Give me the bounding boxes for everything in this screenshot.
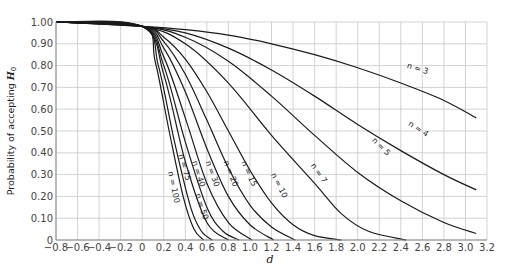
- x-tick-label: 2.4: [393, 242, 409, 253]
- y-tick-label: 0.60: [31, 104, 53, 115]
- x-tick-label: 1.6: [307, 242, 323, 253]
- x-tick-label: 3.0: [457, 242, 473, 253]
- curve-label: n = 5: [370, 136, 392, 158]
- curve-label: n = 100: [166, 171, 181, 204]
- y-tick-label: 0.20: [31, 191, 53, 202]
- x-tick-label: 3.2: [479, 242, 495, 253]
- x-tick-label: 2.6: [414, 242, 430, 253]
- curve-label: n = 15: [239, 159, 258, 187]
- y-tick-label: 0.40: [31, 147, 53, 158]
- curve-label: n = 7: [309, 162, 329, 185]
- curve-label: n = 4: [407, 119, 430, 139]
- x-tick-label: 0.2: [156, 242, 172, 253]
- x-axis-label: d: [266, 253, 273, 266]
- x-tick-label: 2.0: [350, 242, 366, 253]
- x-tick-labels: −0.8−0.6−0.4−0.200.20.40.60.81.01.21.41.…: [44, 242, 495, 253]
- y-tick-label: 1.00: [31, 17, 53, 28]
- y-axis-label: Probability of accepting H0: [5, 67, 18, 195]
- y-tick-label: 0.50: [31, 126, 53, 137]
- curve-label: n = 10: [269, 171, 289, 199]
- y-tick-label: 0.10: [31, 213, 53, 224]
- y-tick-label: 0: [47, 235, 53, 246]
- x-tick-label: 0.6: [199, 242, 215, 253]
- oc-curve-chart: n = 3n = 4n = 5n = 7n = 10n = 15n = 20n …: [0, 0, 512, 279]
- x-tick-label: 0.4: [177, 242, 193, 253]
- x-tick-label: −0.2: [109, 242, 133, 253]
- y-tick-label: 0.80: [31, 60, 53, 71]
- y-tick-label: 0.70: [31, 82, 53, 93]
- x-tick-label: 1.8: [328, 242, 344, 253]
- x-tick-label: 1.2: [264, 242, 280, 253]
- x-tick-label: 2.8: [436, 242, 452, 253]
- x-tick-label: 1.0: [242, 242, 258, 253]
- y-tick-label: 0.30: [31, 169, 53, 180]
- x-tick-label: 1.4: [285, 242, 301, 253]
- y-tick-labels: 00.100.200.300.400.500.600.700.800.901.0…: [31, 17, 53, 246]
- y-tick-label: 0.90: [31, 38, 53, 49]
- curve-label: n = 3: [406, 61, 430, 76]
- x-tick-label: 0.8: [220, 242, 236, 253]
- curve-label: n = 20: [221, 159, 239, 187]
- oc-curve: [56, 22, 476, 190]
- x-tick-label: 0: [139, 242, 145, 253]
- x-tick-label: 2.2: [371, 242, 387, 253]
